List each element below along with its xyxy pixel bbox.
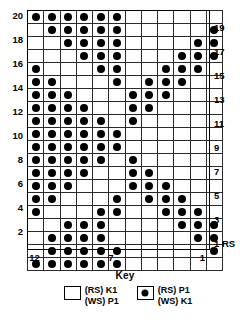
key-label-line1: (RS) K1 [85,285,119,296]
row-number-4: 4 [0,202,23,214]
row-number-5: 5 [214,190,250,202]
purl-dot-icon [48,260,56,268]
purl-dot-icon [142,290,149,297]
chart-key: Key (RS) K1(WS) P1(RS) P1(WS) K1 [0,270,250,319]
row-number-axis: 2019181716151413121110987654321 RS [0,10,250,250]
chart-cell-r1-c5[interactable] [141,258,157,271]
row-number-8: 8 [0,154,23,166]
row-number-10: 10 [0,130,23,142]
purl-dot-icon [80,260,88,268]
row-number-7: 7 [214,166,250,178]
purl-dot-icon [64,260,72,268]
key-label: (RS) P1(WS) K1 [158,285,193,306]
key-items: (RS) K1(WS) P1(RS) P1(WS) K1 [0,285,250,306]
knit-swatch-icon [64,286,81,300]
row-number-17: 17 [214,46,250,58]
row-number-18: 18 [0,34,23,46]
row-number-9: 9 [214,142,250,154]
row-number-11: 11 [214,118,250,130]
row-number-13: 13 [214,94,250,106]
row-number-2: 2 [0,226,23,238]
column-number-7: 7 [97,252,125,264]
chart-cell-r1-c10[interactable] [60,258,76,271]
key-title: Key [0,270,250,281]
row-number-12: 12 [0,106,23,118]
key-label: (RS) K1(WS) P1 [85,285,119,306]
purl-swatch-icon [137,286,154,300]
column-number-12: 12 [21,252,49,264]
row-number-19: 19 [214,22,250,34]
key-label-line1: (RS) P1 [158,285,193,296]
row-number-6: 6 [0,178,23,190]
chart-cell-r1-c4[interactable] [158,258,174,271]
row-number-16: 16 [0,58,23,70]
chart-cell-r1-c6[interactable] [125,258,141,271]
key-label-line2: (WS) P1 [85,296,119,307]
key-label-line2: (WS) K1 [158,296,193,307]
row-number-3: 3 [214,214,250,226]
column-number-1: 1 [188,252,216,264]
knitting-chart: 2019181716151413121110987654321 RS 1271 [0,0,250,258]
chart-cell-r1-c9[interactable] [76,258,92,271]
row-number-20: 20 [0,10,23,22]
row-number-14: 14 [0,82,23,94]
row-number-15: 15 [214,70,250,82]
key-item-purl: (RS) P1(WS) K1 [137,285,193,306]
row-number-1: 1 RS [214,238,250,250]
key-item-knit: (RS) K1(WS) P1 [64,285,119,306]
